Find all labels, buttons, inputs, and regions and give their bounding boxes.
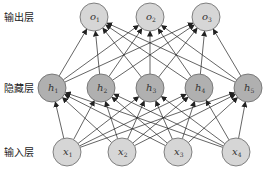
- neural-network-diagram: o1o2o3h1h2h3h4h5x1x2x3x4 输出层隐藏层输入层: [0, 0, 266, 175]
- layer-label-hidden: 隐藏层: [4, 83, 34, 94]
- nodes: o1o2o3h1h2h3h4h5x1x2x3x4: [38, 3, 262, 166]
- edge-arrow: [63, 98, 112, 143]
- edge-arrow: [188, 98, 237, 143]
- node-x1: x1: [53, 138, 81, 166]
- node-o3: o3: [192, 3, 220, 31]
- node-h4: h4: [185, 74, 213, 102]
- layer-label-input: 输入层: [4, 146, 34, 158]
- edge-arrow: [239, 102, 246, 138]
- node-h3: h3: [136, 74, 164, 102]
- node-o2: o2: [136, 3, 164, 31]
- edge-arrow: [80, 94, 186, 146]
- edge-arrow: [133, 97, 188, 143]
- edge-arrow: [109, 29, 142, 77]
- layer-labels: 输出层隐藏层输入层: [4, 11, 34, 158]
- edge-arrow: [113, 25, 194, 80]
- edge-arrow: [59, 29, 86, 75]
- node-o1: o1: [80, 3, 108, 31]
- edge-arrow: [206, 101, 229, 140]
- node-h1: h1: [38, 74, 66, 102]
- layer-label-output: 输出层: [4, 11, 34, 23]
- node-h5: h5: [234, 74, 262, 102]
- edge-arrow: [158, 29, 191, 77]
- node-h2: h2: [87, 74, 115, 102]
- node-x4: x4: [222, 138, 250, 166]
- edge-arrow: [213, 29, 240, 75]
- edge-arrow: [65, 23, 193, 82]
- edge-arrow: [55, 102, 63, 138]
- node-x3: x3: [164, 138, 192, 166]
- edge-arrow: [162, 26, 237, 80]
- edge-arrow: [63, 26, 138, 80]
- edge-arrow: [106, 25, 187, 80]
- edge-arrow: [107, 23, 235, 82]
- node-x2: x2: [108, 138, 136, 166]
- edge-arrow: [112, 97, 167, 143]
